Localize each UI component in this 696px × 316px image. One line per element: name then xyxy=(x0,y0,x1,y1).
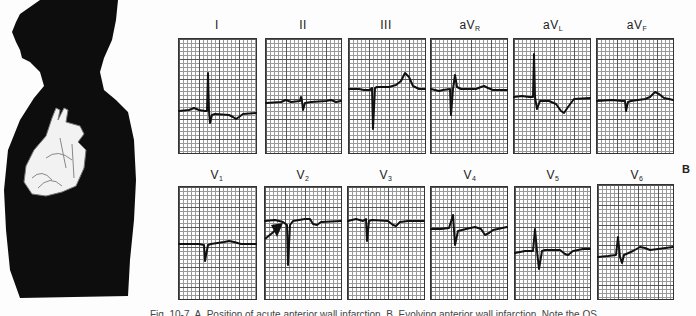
figure-caption: Fig. 10-7. A, Position of acute anterior… xyxy=(150,307,690,316)
lead-label-V6: V6 xyxy=(597,168,677,182)
lead-label-V5: V5 xyxy=(513,168,593,182)
lead-label-I: I xyxy=(177,18,257,32)
arrow-icon xyxy=(265,223,283,239)
ecg-panel-II xyxy=(265,38,342,154)
ecg-panel-III xyxy=(348,38,426,154)
ecg-panel-V3 xyxy=(347,186,425,300)
lead-label-III: III xyxy=(346,18,426,32)
ecg-panel-V4 xyxy=(430,186,508,300)
ecg-figure: I II III aVR aVL aVF V1 V2 V3 V4 V5 V6 B xyxy=(0,0,696,316)
ecg-panel-I xyxy=(178,38,257,154)
ecg-panel-aVF xyxy=(596,38,674,154)
lead-label-V2: V2 xyxy=(263,168,343,182)
ecg-panel-aVL xyxy=(513,38,591,154)
ecg-panel-V1 xyxy=(178,186,257,300)
lead-label-V3: V3 xyxy=(346,168,426,182)
ecg-panel-aVR xyxy=(430,38,508,154)
lead-label-V1: V1 xyxy=(177,168,257,182)
lead-label-V4: V4 xyxy=(430,168,510,182)
lead-label-II: II xyxy=(263,18,343,32)
lead-label-aVR: aVR xyxy=(430,18,510,32)
ecg-panel-V2 xyxy=(264,186,342,300)
torso-silhouette-illustration xyxy=(0,0,150,300)
ecg-panel-V6 xyxy=(597,184,674,300)
ecg-panel-V5 xyxy=(514,186,591,300)
panel-tag-B: B xyxy=(682,163,690,175)
lead-label-aVL: aVL xyxy=(513,18,593,32)
lead-label-aVF: aVF xyxy=(597,18,677,32)
